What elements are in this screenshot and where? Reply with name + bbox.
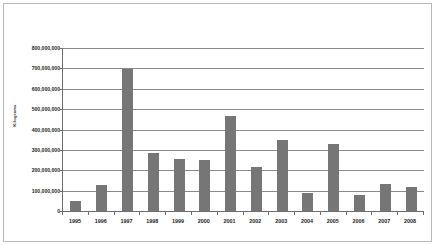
bar-slot <box>321 48 347 211</box>
y-axis-tick-label: 400,000,000 <box>14 127 60 133</box>
y-axis-tick-label: 700,000,000 <box>14 65 60 71</box>
x-axis-tickmark <box>423 211 424 215</box>
x-axis-tick-label: 1999 <box>165 216 191 228</box>
x-axis-tick-label: 1996 <box>88 216 114 228</box>
bar-2008[interactable] <box>406 187 417 211</box>
x-axis-tickmark <box>294 211 295 215</box>
x-axis-tick-label: 2007 <box>371 216 397 228</box>
x-axis-tick-label: 2005 <box>320 216 346 228</box>
bar-slot <box>115 48 141 211</box>
y-axis-tick-label: 100,000,000 <box>14 188 60 194</box>
bar-1996[interactable] <box>96 185 107 211</box>
x-axis-tick-label: 2002 <box>242 216 268 228</box>
x-axis-tick-label: 1997 <box>114 216 140 228</box>
x-axis-tick-label: 2006 <box>346 216 372 228</box>
bar-1995[interactable] <box>70 201 81 211</box>
bar-2001[interactable] <box>225 116 236 211</box>
y-axis-tick-label: 800,000,000 <box>14 45 60 51</box>
y-axis-tick-label: 600,000,000 <box>14 86 60 92</box>
x-axis-tickmark <box>320 211 321 215</box>
bar-slot <box>398 48 424 211</box>
bar-chart-figure: Kilograms 0100,000,000200,000,000300,000… <box>0 0 435 245</box>
x-axis-tickmark <box>217 211 218 215</box>
x-axis-tickmark <box>346 211 347 215</box>
x-axis-tick-label: 2004 <box>294 216 320 228</box>
x-axis-tick-labels: 1995199619971998199920002001200220032004… <box>62 216 423 228</box>
bar-slot <box>63 48 89 211</box>
y-axis-tick-label: 200,000,000 <box>14 167 60 173</box>
bar-2006[interactable] <box>354 195 365 211</box>
bar-slot <box>295 48 321 211</box>
x-axis-tickmark <box>191 211 192 215</box>
x-axis-tickmark <box>62 211 63 215</box>
x-axis-tickmark <box>165 211 166 215</box>
x-axis-tickmark <box>268 211 269 215</box>
bar-2002[interactable] <box>251 167 262 211</box>
x-axis-tick-label: 1998 <box>139 216 165 228</box>
bar-slot <box>89 48 115 211</box>
bar-slot <box>192 48 218 211</box>
bar-2003[interactable] <box>277 140 288 211</box>
x-axis-tick-label: 2003 <box>268 216 294 228</box>
x-axis-tickmark <box>397 211 398 215</box>
x-axis-tickmark <box>139 211 140 215</box>
bar-2007[interactable] <box>380 184 391 212</box>
bars-series <box>63 48 424 211</box>
x-axis-tick-label: 1995 <box>62 216 88 228</box>
x-axis-tick-label: 2001 <box>217 216 243 228</box>
bar-2004[interactable] <box>302 193 313 211</box>
x-axis-tickmarks <box>62 211 424 215</box>
x-axis-tickmark <box>114 211 115 215</box>
bar-slot <box>347 48 373 211</box>
x-axis-tick-label: 2000 <box>191 216 217 228</box>
x-axis-tickmark <box>243 211 244 215</box>
plot-area <box>62 48 424 212</box>
bar-2005[interactable] <box>328 144 339 211</box>
y-axis-tick-labels: 0100,000,000200,000,000300,000,000400,00… <box>14 42 60 217</box>
bar-slot <box>243 48 269 211</box>
y-axis-tick-label: 500,000,000 <box>14 106 60 112</box>
bar-1997[interactable] <box>122 69 133 211</box>
bar-2000[interactable] <box>199 160 210 211</box>
x-axis-tickmark <box>88 211 89 215</box>
bar-slot <box>372 48 398 211</box>
bar-1999[interactable] <box>174 159 185 211</box>
bar-slot <box>269 48 295 211</box>
screenshot-root: Kilograms 0100,000,000200,000,000300,000… <box>0 0 435 245</box>
bar-slot <box>140 48 166 211</box>
bar-1998[interactable] <box>148 153 159 211</box>
y-axis-tick-label: 300,000,000 <box>14 147 60 153</box>
y-axis-tick-label: 0 <box>14 208 60 214</box>
x-axis-tickmark <box>371 211 372 215</box>
bar-slot <box>166 48 192 211</box>
x-axis-tick-label: 2008 <box>397 216 423 228</box>
bar-slot <box>218 48 244 211</box>
